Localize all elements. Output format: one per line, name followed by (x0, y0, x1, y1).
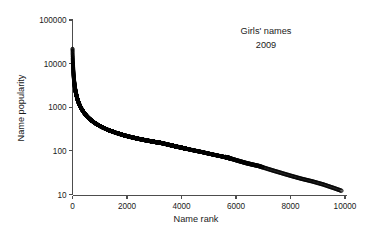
y-axis-title: Name popularity (16, 74, 26, 141)
x-tick-label-4000: 4000 (172, 202, 191, 211)
x-tick-label-10000: 10000 (334, 202, 357, 211)
annotation-year: 2009 (256, 40, 276, 50)
x-tick-label-0: 0 (70, 202, 75, 211)
y-tick-label-100: 100 (53, 147, 67, 156)
scatter-plot-canvas: 10100100010000100000 0200040006000800010… (0, 0, 367, 236)
annotation-girls-names: Girls' names (241, 26, 292, 36)
x-axis-title: Name rank (174, 214, 219, 224)
x-tick-label-6000: 6000 (227, 202, 246, 211)
y-tick-label-100000: 100000 (39, 16, 67, 25)
x-tick-label-8000: 8000 (281, 202, 300, 211)
x-axis-tick-labels: 0200040006000800010000 (70, 202, 357, 211)
data-series-points (71, 47, 343, 192)
x-tick-label-2000: 2000 (118, 202, 137, 211)
y-tick-label-1000: 1000 (48, 103, 67, 112)
y-axis-tick-labels: 10100100010000100000 (39, 16, 67, 200)
y-tick-label-10000: 10000 (44, 60, 67, 69)
y-tick-label-10: 10 (57, 191, 67, 200)
chart-figure: 10100100010000100000 0200040006000800010… (0, 0, 367, 236)
